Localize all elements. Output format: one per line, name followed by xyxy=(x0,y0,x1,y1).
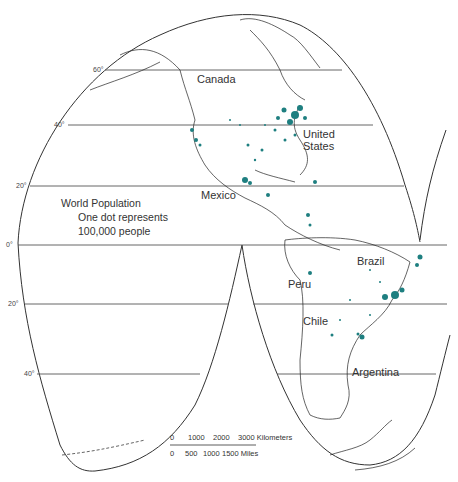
scale-km-0: 0 xyxy=(170,433,174,442)
label-peru: Peru xyxy=(288,278,311,290)
scale-mi-0: 0 xyxy=(170,449,174,458)
interruption-wedge-right xyxy=(420,130,446,240)
label-chile: Chile xyxy=(303,315,328,327)
label-canada: Canada xyxy=(197,73,236,85)
lat-label-40s: 40° xyxy=(24,370,35,377)
label-states: States xyxy=(303,140,334,152)
scale-mi-1500: 1500 Miles xyxy=(222,449,258,458)
scale-mi-1000: 1000 xyxy=(203,449,220,458)
lat-label-20s: 20° xyxy=(8,300,19,307)
legend-title: World Population xyxy=(61,196,168,210)
label-brazil: Brazil xyxy=(357,255,385,267)
scale-km-1000: 1000 xyxy=(188,433,205,442)
map-legend: World Population One dot represents 100,… xyxy=(61,196,168,238)
label-united: United xyxy=(303,128,335,140)
lat-label-20n: 20° xyxy=(16,182,27,189)
southern-left-lobe-outline xyxy=(18,243,242,471)
legend-line1: One dot represents xyxy=(61,210,168,224)
lat-label-60n: 60° xyxy=(93,66,104,73)
scale-km-2000: 2000 xyxy=(213,433,230,442)
southern-right-lobe-outline xyxy=(242,245,450,465)
legend-line2: 100,000 people xyxy=(61,224,168,238)
scale-km-3000: 3000 Kilometers xyxy=(238,433,292,442)
lat-label-0: 0° xyxy=(6,241,13,248)
label-argentina: Argentina xyxy=(352,366,399,378)
lat-label-40n: 40° xyxy=(54,121,65,128)
scale-mi-500: 500 xyxy=(185,449,198,458)
label-mexico: Mexico xyxy=(201,189,236,201)
